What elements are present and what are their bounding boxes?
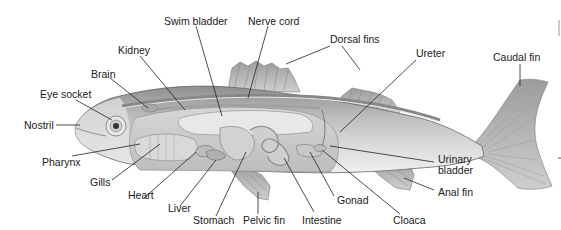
label-caudal-fin: Caudal fin xyxy=(493,52,540,63)
label-intestine: Intestine xyxy=(302,215,342,226)
label-stomach: Stomach xyxy=(193,215,234,226)
label-liver: Liver xyxy=(168,203,191,214)
fish-illustration xyxy=(0,0,561,230)
caudal-fin xyxy=(470,79,552,189)
label-cloaca: Cloaca xyxy=(393,215,426,226)
label-ureter: Ureter xyxy=(416,48,445,59)
label-brain: Brain xyxy=(91,69,116,80)
label-pelvic-fin: Pelvic fin xyxy=(243,215,285,226)
label-swim-bladder: Swim bladder xyxy=(164,16,228,27)
label-dorsal-fins: Dorsal fins xyxy=(330,34,380,45)
urinary-bladder xyxy=(314,145,326,152)
label-heart: Heart xyxy=(128,190,154,201)
label-gills: Gills xyxy=(90,177,110,188)
fish-anatomy-diagram: Swim bladder Nerve cord Dorsal fins Kidn… xyxy=(0,0,561,230)
dorsal-fin-front xyxy=(228,61,300,92)
label-urinary-bladder: Urinary bladder xyxy=(438,154,473,176)
label-kidney: Kidney xyxy=(118,45,150,56)
label-eye-socket: Eye socket xyxy=(40,89,91,100)
label-gonad: Gonad xyxy=(337,195,369,206)
label-nostril: Nostril xyxy=(24,120,54,131)
label-pharynx: Pharynx xyxy=(42,157,81,168)
label-nerve-cord: Nerve cord xyxy=(248,16,299,27)
label-anal-fin: Anal fin xyxy=(438,187,473,198)
